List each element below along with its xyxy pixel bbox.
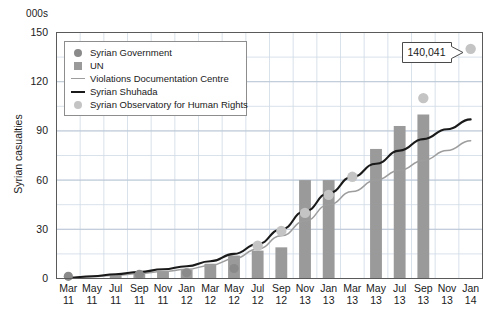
data-point <box>323 190 333 200</box>
callout-value: 140,041 <box>402 42 451 63</box>
bar <box>299 180 311 278</box>
legend-item-label: Syrian Government <box>90 47 172 58</box>
legend-item[interactable]: UN <box>70 59 241 72</box>
legend-item-label: Syrian Observatory for Human Rights <box>90 99 248 110</box>
legend-item[interactable]: Violations Documentation Centre <box>70 72 241 85</box>
data-point <box>64 272 73 281</box>
data-point <box>182 268 191 277</box>
thin-line-marker-icon <box>70 73 86 84</box>
sohr-latest-callout: 140,041 <box>402 42 464 63</box>
data-point <box>229 264 238 273</box>
legend-swatch <box>71 78 85 79</box>
data-point <box>347 172 357 182</box>
data-point <box>135 270 144 279</box>
legend-item-label: Violations Documentation Centre <box>90 73 229 84</box>
data-point <box>252 241 262 251</box>
circle-marker-icon <box>70 99 86 110</box>
casualties-chart: 000s Syrian casualties 0306090120150 Mar… <box>0 0 497 326</box>
legend-item[interactable]: Syrian Government <box>70 46 241 59</box>
legend: Syrian GovernmentUNViolations Documentat… <box>64 41 247 116</box>
bar <box>252 251 264 279</box>
circle-marker-icon <box>70 47 86 58</box>
thick-line-marker-icon <box>70 86 86 97</box>
square-marker-icon <box>70 60 86 71</box>
bar <box>275 247 287 278</box>
data-point <box>276 226 286 236</box>
data-point <box>465 44 475 54</box>
legend-swatch <box>74 101 82 109</box>
legend-item[interactable]: Syrian Shuhada <box>70 85 241 98</box>
data-point <box>418 93 428 103</box>
legend-item[interactable]: Syrian Observatory for Human Rights <box>70 98 241 111</box>
legend-item-label: Syrian Shuhada <box>90 86 158 97</box>
bar <box>370 149 382 279</box>
legend-swatch <box>74 62 82 70</box>
data-point <box>300 208 310 218</box>
legend-swatch <box>74 49 82 57</box>
legend-item-label: UN <box>90 60 104 71</box>
legend-swatch <box>71 91 85 93</box>
